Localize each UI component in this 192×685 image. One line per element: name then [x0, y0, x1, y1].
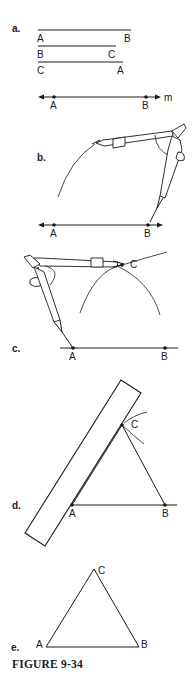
point-b-label: B: [141, 639, 148, 650]
compass-pencil-leg: [96, 131, 173, 146]
compass-hinge: [172, 124, 186, 138]
arc: [58, 144, 95, 197]
point-a: [52, 95, 56, 99]
point-a-label: A: [36, 639, 43, 650]
point-b-label: B: [144, 228, 151, 239]
figure-caption: FIGURE 9-34: [12, 658, 83, 670]
part-d: d. C A B: [12, 380, 177, 546]
point-b-label: B: [161, 351, 168, 362]
part-b: b. A B: [37, 124, 186, 239]
arrow-right-icon: [155, 95, 161, 100]
segment-ab-right-label: B: [124, 33, 131, 44]
point-c: [120, 263, 124, 267]
compass-hinge: [24, 255, 40, 268]
part-d-label: d.: [12, 500, 21, 511]
point-c-label: C: [98, 565, 105, 576]
straightedge: [25, 380, 141, 546]
point-b: [146, 223, 150, 227]
compass-needle-leg: [160, 136, 182, 198]
point-a-label: A: [50, 100, 57, 111]
segment-ab-left-label: A: [37, 33, 44, 44]
part-c-label: c.: [12, 343, 21, 354]
segment-ca-left-label: C: [37, 65, 44, 76]
compass: [92, 124, 186, 222]
point-a-label: A: [69, 351, 76, 362]
point-b: [163, 503, 167, 507]
point-b: [163, 346, 167, 350]
compass-thumb-grip: [176, 152, 184, 161]
part-c: c. C A B: [12, 252, 178, 362]
compass-needle-leg: [34, 267, 60, 322]
compass-needle-point: [150, 208, 157, 222]
point-a: [70, 503, 74, 507]
point-c-label: C: [131, 419, 138, 430]
part-b-label: b.: [37, 152, 46, 163]
point-b-label: B: [142, 100, 149, 111]
point-a: [52, 223, 56, 227]
point-c: [120, 423, 124, 427]
arrow-right-icon: [157, 223, 163, 228]
point-b: [144, 95, 148, 99]
segment-bc-right-label: C: [108, 49, 115, 60]
line-m-label: m: [164, 92, 172, 103]
compass: [24, 255, 124, 348]
point-b-label: B: [162, 508, 169, 519]
compass-pencil-leg: [34, 258, 118, 267]
arc-from-b: [113, 264, 160, 315]
arrow-left-icon: [38, 223, 44, 228]
point-a-label: A: [69, 508, 76, 519]
point-a: [71, 346, 75, 350]
equilateral-triangle: [46, 569, 139, 647]
point-c-label: C: [130, 259, 137, 270]
part-e: e. A B C: [11, 565, 148, 653]
compass-needle-point: [62, 332, 73, 348]
part-a-label: a.: [12, 23, 21, 34]
point-a-label: A: [50, 228, 57, 239]
segment-bc-left-label: B: [37, 49, 44, 60]
compass-needle: [157, 196, 163, 208]
segment-ca-right-label: A: [117, 65, 124, 76]
part-a: a. A B B C C A A B m: [12, 23, 172, 111]
part-e-label: e.: [11, 642, 20, 653]
compass-clamp: [113, 137, 125, 148]
side-ac: [72, 425, 122, 505]
figure-canvas: a. A B B C C A A B m b.: [0, 0, 192, 685]
side-cb: [122, 425, 165, 505]
arrow-left-icon: [38, 95, 44, 100]
compass-clamp: [91, 258, 103, 267]
